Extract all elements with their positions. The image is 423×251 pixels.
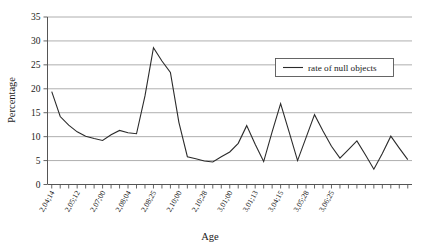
y-tick-label: 35: [31, 12, 41, 22]
legend-label: rate of null objects: [308, 63, 377, 73]
chart-container: 05101520253035 2,04;142,05;122,07;002,08…: [0, 0, 423, 251]
y-tick-label: 25: [31, 60, 41, 70]
line-chart: 05101520253035 2,04;142,05;122,07;002,08…: [0, 0, 423, 251]
legend[interactable]: rate of null objects: [276, 59, 394, 77]
y-tick-label: 30: [31, 36, 41, 46]
y-tick-label: 15: [31, 108, 41, 118]
x-axis-title: Age: [201, 231, 219, 242]
y-axis-title: Percentage: [6, 77, 17, 123]
y-tick-label: 20: [31, 84, 41, 94]
y-tick-label: 10: [31, 132, 41, 142]
chart-background: [0, 0, 423, 251]
y-tick-label: 5: [36, 156, 41, 166]
y-tick-label: 0: [36, 180, 41, 190]
